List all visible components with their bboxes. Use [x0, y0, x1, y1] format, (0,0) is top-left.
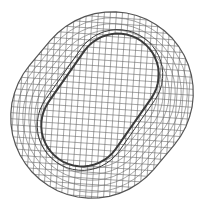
- inner-raised-mesh: [0, 0, 200, 203]
- mesh-figure: Finite element surface mesh of a stadium…: [0, 0, 200, 203]
- mesh-diagram: [0, 0, 200, 203]
